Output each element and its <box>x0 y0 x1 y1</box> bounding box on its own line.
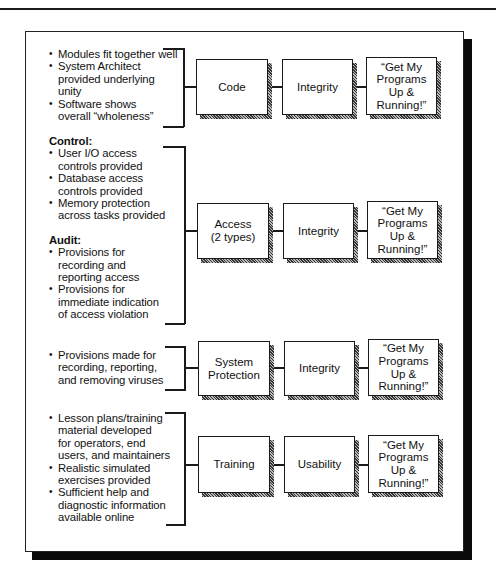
bracket-spine <box>183 48 185 127</box>
bracket-bottom-arm <box>165 323 185 325</box>
bracket-spine <box>184 146 186 324</box>
box-code: Code <box>196 59 268 115</box>
connector-line <box>185 230 197 232</box>
connector-line <box>185 367 198 369</box>
control-heading: Control: <box>49 135 165 147</box>
list-item: Provisions forrecording andreporting acc… <box>49 246 165 283</box>
box-system-protection: SystemProtection <box>198 341 270 396</box>
bracket-bottom-arm <box>166 524 185 526</box>
bracket-bottom-arm <box>163 126 184 128</box>
top-rule <box>0 8 496 10</box>
list-item: Sufficient help anddiagnostic informatio… <box>49 486 170 523</box>
box-integrity: Integrity <box>282 59 353 115</box>
connector-line <box>185 464 198 466</box>
list-item: Provisions made forrecording, reporting,… <box>49 349 163 386</box>
box-training: Training <box>198 436 270 493</box>
box-goal: “Get MyProgramsUp &Running!” <box>366 57 437 115</box>
bracket-top-arm <box>165 346 185 348</box>
list-item: Database accesscontrols provided <box>49 172 165 197</box>
training-criteria-list: Lesson plans/trainingmaterial developedf… <box>49 412 170 524</box>
audit-heading: Audit: <box>49 234 165 246</box>
list-item: System Architectprovided underlyingunity <box>49 60 177 97</box>
list-item: Memory protectionacross tasks provided <box>49 197 165 222</box>
code-criteria-list: Modules fit together well System Archite… <box>49 48 177 122</box>
box-goal: “Get MyProgramsUp &Running!” <box>368 339 439 396</box>
box-access: Access(2 types) <box>197 203 269 259</box>
system-protection-criteria-list: Provisions made forrecording, reporting,… <box>49 349 163 386</box>
bracket-top-arm <box>165 412 185 414</box>
access-criteria-list: Control: User I/O accesscontrols provide… <box>49 135 165 321</box>
connector-line <box>184 86 196 88</box>
box-goal: “Get MyProgramsUp &Running!” <box>367 201 438 259</box>
list-item: Software showsoverall “wholeness” <box>49 98 177 123</box>
box-integrity: Integrity <box>284 341 355 396</box>
list-item: Provisions forimmediate indicationof acc… <box>49 283 165 320</box>
box-usability: Usability <box>284 436 355 493</box>
bracket-spine <box>184 346 186 391</box>
box-integrity: Integrity <box>283 203 354 259</box>
bracket-spine <box>184 412 186 526</box>
bracket-top-arm <box>163 146 184 148</box>
list-item: User I/O accesscontrols provided <box>49 147 165 172</box>
list-item: Modules fit together well <box>49 48 177 60</box>
bracket-bottom-arm <box>165 389 185 391</box>
list-item: Lesson plans/trainingmaterial developedf… <box>49 412 170 462</box>
bracket-top-arm <box>163 48 184 50</box>
box-goal: “Get MyProgramsUp &Running!” <box>368 435 439 493</box>
list-item: Realistic simulatedexercises provided <box>49 462 170 487</box>
